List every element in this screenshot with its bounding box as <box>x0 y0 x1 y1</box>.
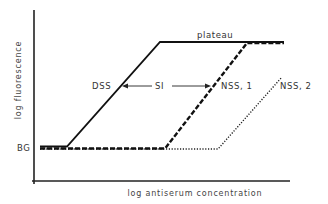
nss2-label: NSS, 2 <box>280 81 312 91</box>
plateau-label: plateau <box>197 30 233 40</box>
nss1-label: NSS, 1 <box>221 81 253 91</box>
series-nss1-line <box>40 43 284 149</box>
series-dss-line <box>40 42 284 147</box>
x-axis-title: log antiserum concentration <box>128 189 263 198</box>
bg-label: BG <box>17 143 30 153</box>
arrowhead-right-icon <box>205 84 211 89</box>
y-axis-title: log fluorescence <box>14 41 23 119</box>
dss-label: DSS <box>92 81 111 91</box>
chart: plateau DSS SI NSS, 1 NSS, 2 BG log fluo… <box>0 0 328 204</box>
si-label: SI <box>155 81 164 91</box>
